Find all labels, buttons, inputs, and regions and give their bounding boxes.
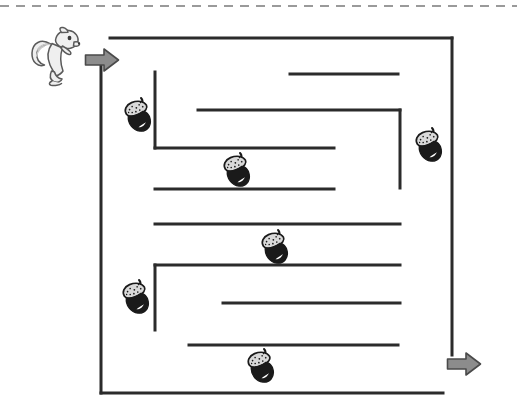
maze-canvas <box>0 0 517 410</box>
acorn-3-icon <box>414 127 445 164</box>
acorn-4-icon <box>260 229 291 266</box>
maze-walls <box>101 38 452 393</box>
direction-arrows <box>86 49 481 375</box>
acorn-6-icon <box>246 348 277 385</box>
acorn-5-icon <box>121 279 152 316</box>
squirrel <box>32 27 80 85</box>
squirrel-icon <box>32 27 80 85</box>
maze-page: Squirrel and Acorns Maze <box>0 0 517 410</box>
acorns <box>121 97 445 385</box>
acorn-1-icon <box>123 97 154 134</box>
acorn-2-icon <box>222 152 253 189</box>
